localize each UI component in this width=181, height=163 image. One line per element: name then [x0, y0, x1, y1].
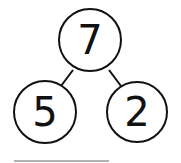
part-left-value: 5 — [32, 89, 57, 135]
whole-value: 7 — [77, 17, 102, 63]
number-bond-diagram: 7 5 2 — [0, 0, 181, 163]
connector-right — [109, 70, 121, 86]
part-right-value: 2 — [124, 89, 149, 135]
connector-left — [61, 70, 73, 86]
part-node-left: 5 — [14, 81, 76, 143]
part-node-right: 2 — [107, 82, 167, 142]
whole-node: 7 — [59, 9, 121, 71]
